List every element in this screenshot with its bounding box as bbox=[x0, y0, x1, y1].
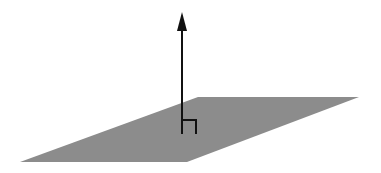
plane bbox=[20, 97, 359, 162]
normal-vector-arrowhead bbox=[177, 12, 187, 31]
normal-vector-diagram bbox=[0, 0, 381, 173]
